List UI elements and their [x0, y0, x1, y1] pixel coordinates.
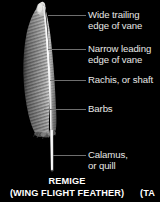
leader-line-rachis-or-shaft	[50, 80, 86, 81]
callout-rachis-or-shaft: Rachis, or shaft	[88, 74, 153, 85]
caption-title: REMIGE	[0, 176, 134, 188]
adjacent-figure-caption-fragment: (TA	[140, 188, 155, 198]
callout-line-2: edge of vane	[88, 54, 151, 65]
callout-line-1: Barbs	[88, 103, 113, 114]
callout-barbs: Barbs	[88, 103, 113, 114]
feather-anatomy-figure: Wide trailing edge of vane Narrow leadin…	[0, 0, 160, 202]
callout-line-2: edge of vane	[88, 20, 142, 31]
callout-line-1: Wide trailing	[88, 9, 140, 20]
figure-caption: REMIGE (WING FLIGHT FEATHER)	[0, 176, 134, 199]
leader-line-calamus-or-quill	[53, 155, 86, 156]
calamus-base-opening	[51, 170, 54, 172]
leader-line-narrow-leading-edge-of-vane	[48, 49, 86, 50]
callout-line-1: Rachis, or shaft	[88, 74, 153, 85]
callout-narrow-leading-edge-of-vane: Narrow leading edge of vane	[88, 43, 151, 66]
leader-line-wide-trailing-edge-of-vane	[48, 15, 86, 16]
callout-line-1: Narrow leading	[88, 43, 151, 54]
callout-line-1: Calamus,	[88, 149, 128, 160]
callout-wide-trailing-edge-of-vane: Wide trailing edge of vane	[88, 9, 142, 32]
callout-calamus-or-quill: Calamus, or quill	[88, 149, 128, 172]
callout-line-2: or quill	[88, 160, 128, 171]
leader-line-barbs	[44, 109, 86, 110]
caption-subtitle: (WING FLIGHT FEATHER)	[0, 188, 134, 200]
